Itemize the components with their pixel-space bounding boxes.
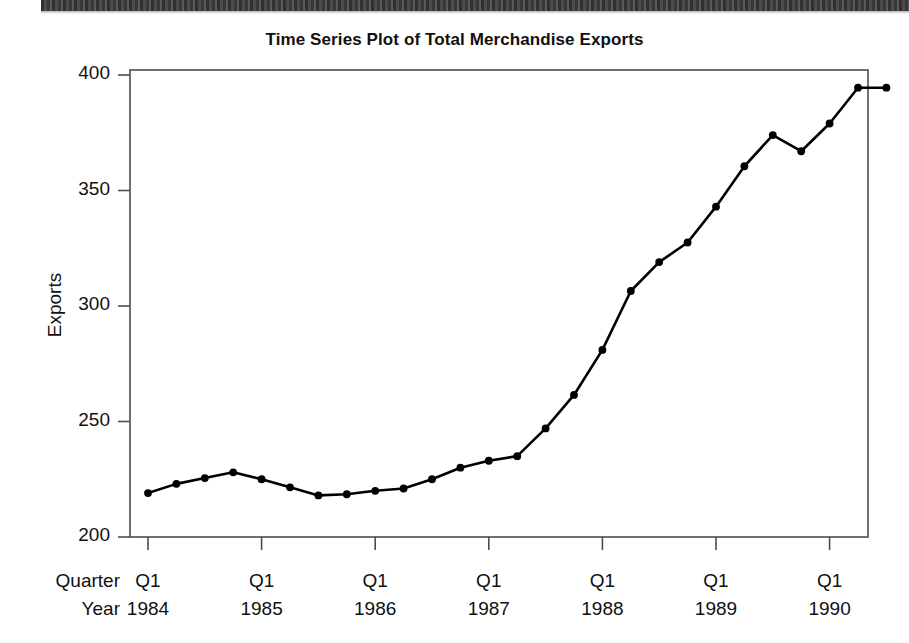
- x-axis-row-label-quarter: Quarter: [0, 570, 120, 592]
- x-axis-year-label: 1985: [222, 598, 302, 620]
- data-point-marker: [315, 492, 323, 500]
- data-point-marker: [173, 480, 181, 488]
- y-axis-ticks: [118, 75, 130, 537]
- data-point-marker: [655, 258, 663, 266]
- data-point-marker: [343, 490, 351, 498]
- x-axis-quarter-label: Q1: [449, 570, 529, 592]
- x-axis-year-label: 1989: [676, 598, 756, 620]
- x-axis-quarter-label: Q1: [562, 570, 642, 592]
- data-point-marker: [883, 84, 891, 92]
- data-point-marker: [286, 483, 294, 491]
- data-point-marker: [684, 239, 692, 247]
- data-point-marker: [826, 120, 834, 128]
- x-axis-quarter-label: Q1: [108, 570, 188, 592]
- data-point-marker: [599, 346, 607, 354]
- data-point-marker: [400, 485, 408, 493]
- x-axis-year-label: 1986: [335, 598, 415, 620]
- data-point-marker: [627, 287, 635, 295]
- data-point-marker: [457, 464, 465, 472]
- data-point-marker: [428, 475, 436, 483]
- y-axis-title: Exports: [44, 273, 66, 337]
- chart-svg: [0, 0, 909, 643]
- data-point-marker: [570, 391, 578, 399]
- data-point-marker: [542, 425, 550, 433]
- data-point-marker: [371, 487, 379, 495]
- x-axis-year-label: 1987: [449, 598, 529, 620]
- y-axis-tick-label: 350: [10, 178, 110, 200]
- x-axis-row-label-year: Year: [0, 598, 120, 620]
- plot-frame-rect: [130, 70, 868, 537]
- y-axis-tick-label: 250: [10, 409, 110, 431]
- data-point-marker: [741, 162, 749, 170]
- plot-frame: [130, 70, 868, 537]
- data-point-marker: [229, 468, 237, 476]
- chart-plot-area: 200250300350400 Exports Quarter Year Q11…: [0, 0, 909, 643]
- data-point-marker: [258, 475, 266, 483]
- data-point-marker: [769, 131, 777, 139]
- x-axis-quarter-label: Q1: [222, 570, 302, 592]
- data-point-marker: [201, 474, 209, 482]
- y-axis-tick-label: 200: [10, 524, 110, 546]
- data-point-marker: [144, 489, 152, 497]
- x-axis-year-label: 1990: [790, 598, 870, 620]
- data-point-marker: [797, 147, 805, 155]
- data-point-marker: [485, 457, 493, 465]
- x-axis-quarter-label: Q1: [790, 570, 870, 592]
- data-point-marker: [854, 84, 862, 92]
- x-axis-quarter-label: Q1: [335, 570, 415, 592]
- x-axis-quarter-label: Q1: [676, 570, 756, 592]
- x-axis-ticks: [148, 537, 830, 550]
- data-point-marker: [513, 452, 521, 460]
- x-axis-year-label: 1988: [562, 598, 642, 620]
- y-axis-tick-label: 400: [10, 62, 110, 84]
- x-axis-year-label: 1984: [108, 598, 188, 620]
- data-point-marker: [712, 203, 720, 211]
